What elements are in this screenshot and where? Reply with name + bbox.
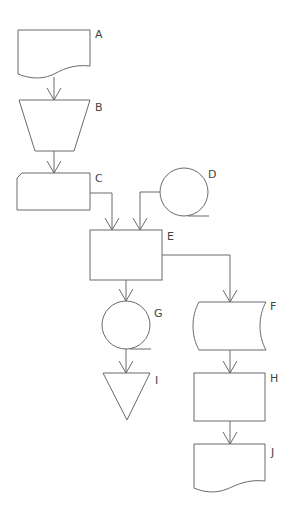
node-b-label: B [95, 101, 103, 114]
document-shape [194, 444, 265, 492]
edge-c-e [90, 193, 119, 230]
document-shape [18, 30, 90, 78]
stored-data-shape [193, 302, 266, 350]
node-h-label: H [270, 372, 278, 385]
edge-e-g [119, 280, 133, 301]
edge-e-f [162, 255, 237, 302]
flowchart-diagram: A B C D E [0, 0, 291, 518]
node-i: I [103, 373, 158, 420]
edge-f-h [223, 350, 237, 373]
card-shape [17, 173, 90, 210]
edge-g-i [119, 349, 133, 373]
node-d: D [160, 168, 216, 216]
edge-a-b [47, 77, 61, 100]
edge-b-c [47, 151, 61, 173]
edge-h-j [223, 421, 237, 444]
node-e: E [90, 230, 174, 280]
node-a-label: A [95, 28, 103, 41]
rect-shape [194, 373, 265, 421]
triangle-shape [103, 373, 150, 420]
node-h: H [194, 372, 278, 421]
node-c: C [17, 172, 103, 210]
trapezoid-shape [19, 100, 90, 151]
edge-d-e [133, 192, 160, 230]
node-j: J [194, 444, 274, 492]
node-e-label: E [167, 230, 174, 243]
node-i-label: I [155, 374, 158, 387]
node-d-label: D [208, 168, 216, 181]
node-j-label: J [270, 446, 274, 459]
rect-shape [90, 230, 162, 280]
node-f-label: F [270, 300, 276, 313]
node-b: B [19, 100, 103, 151]
node-a: A [18, 28, 103, 78]
node-c-label: C [95, 172, 103, 185]
circle-shape [102, 301, 150, 349]
node-f: F [193, 300, 276, 350]
node-g-label: G [154, 307, 163, 320]
circle-shape [160, 168, 208, 216]
node-g: G [102, 301, 163, 349]
